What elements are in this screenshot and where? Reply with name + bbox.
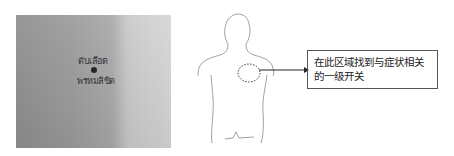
head-outline [225, 14, 250, 44]
highlight-area-dashed [238, 64, 260, 82]
right-torso-outline [261, 75, 267, 143]
callout-box: 在此区域找到与症状相关的一级开关 [307, 50, 438, 89]
human-back-figure [190, 0, 310, 156]
handwritten-label-bottom: พรหมลิขิต [77, 74, 115, 88]
left-torso-outline [211, 75, 213, 143]
acupoint-dot [91, 67, 97, 73]
back-photo: ตับเลือด พรหมลิขิต [16, 15, 171, 148]
lower-back-outline [225, 132, 254, 139]
left-shoulder-outline [198, 44, 228, 76]
handwritten-label-top: ตับเลือด [78, 54, 107, 68]
